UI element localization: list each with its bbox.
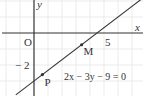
- y-axis-label: y: [36, 0, 42, 10]
- point-label-p: P: [44, 76, 50, 88]
- point-label-m: M: [84, 45, 94, 57]
- origin-label: O: [24, 36, 32, 48]
- x-tick-label: 5: [105, 36, 111, 48]
- equation-label: 2x − 3y − 9 = 0: [64, 71, 126, 82]
- y-tick-label: − 2: [15, 59, 29, 71]
- coordinate-plane: MP x y O 5 − 2 2x − 3y − 9 = 0: [0, 0, 143, 96]
- x-axis-label: x: [134, 21, 140, 33]
